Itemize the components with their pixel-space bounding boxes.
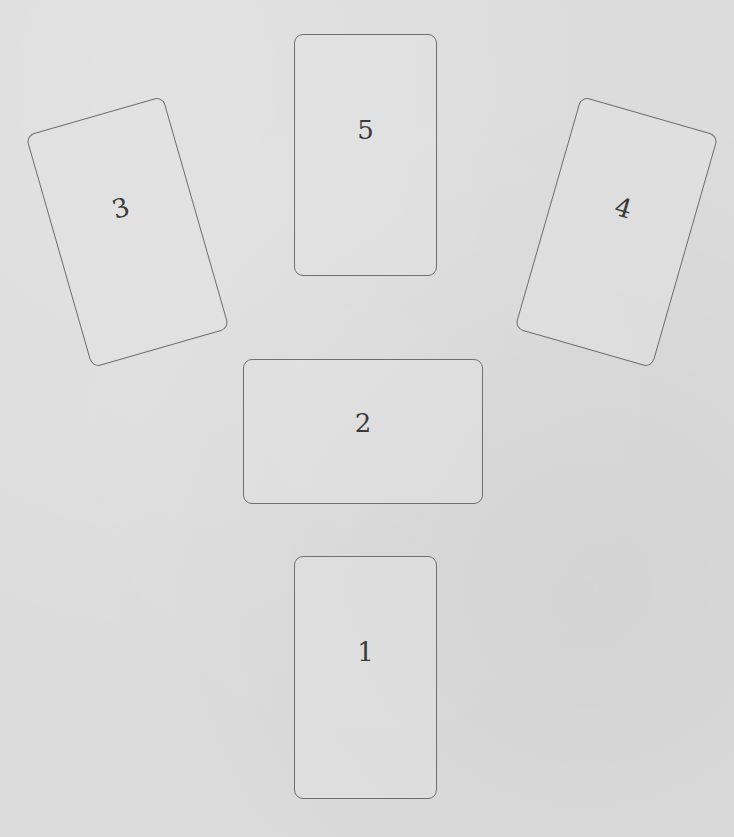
card-position-4[interactable]: 4	[514, 96, 718, 368]
card-number: 4	[551, 174, 695, 242]
card-position-3[interactable]: 3	[25, 96, 229, 368]
card-number: 1	[295, 637, 436, 667]
card-position-1[interactable]: 1	[294, 556, 437, 799]
card-number: 2	[244, 408, 482, 438]
card-number: 3	[49, 174, 193, 242]
card-number: 5	[295, 115, 436, 145]
card-position-2[interactable]: 2	[243, 359, 483, 504]
card-position-5[interactable]: 5	[294, 34, 437, 276]
